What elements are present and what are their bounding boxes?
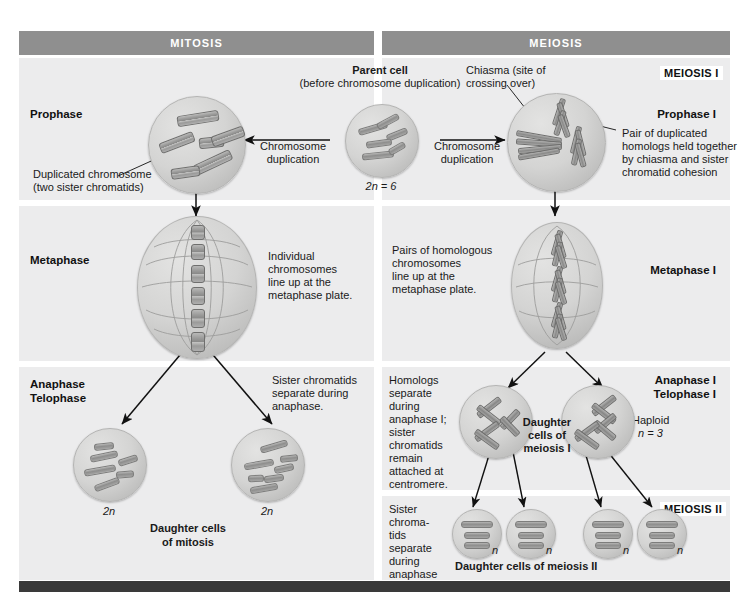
- parent-cell-ploidy: 2n = 6: [341, 180, 421, 193]
- label-telophase: Telophase: [30, 392, 86, 405]
- meiosis-ii-cell-1-ploidy: n: [492, 544, 498, 557]
- annotation-chromosome-duplication-right: Chromosome duplication: [424, 140, 510, 166]
- meiosis-header-label: MEIOSIS: [529, 37, 583, 49]
- label-metaphase-i: Metaphase I: [612, 264, 716, 277]
- caption-daughter-cells-of-mitosis: Daughter cells of mitosis: [126, 521, 250, 549]
- label-anaphase-i: Anaphase I: [618, 374, 716, 387]
- annotation-pairs-of-homologous: Pairs of homologous chromosomes line up …: [392, 244, 512, 296]
- annotation-haploid: Haploid: [632, 414, 712, 427]
- mitosis-header-bar: MITOSIS: [19, 31, 374, 55]
- label-prophase: Prophase: [30, 108, 82, 121]
- meiosis-ii-cell-3-ploidy: n: [623, 544, 629, 557]
- mitosis-daughter-right-ploidy: 2n: [227, 505, 307, 518]
- section-tag-meiosis-i: MEIOSIS I: [660, 66, 723, 80]
- label-anaphase: Anaphase: [30, 378, 85, 391]
- annotation-haploid-n: n = 3: [638, 427, 718, 440]
- label-metaphase: Metaphase: [30, 254, 89, 267]
- mitosis-header-label: MITOSIS: [170, 37, 223, 49]
- caption-daughter-cells-of-meiosis-i: Daughter cells of meiosis I: [514, 416, 580, 455]
- meiosis-prophase-i-cell: [507, 93, 606, 192]
- parent-cell: [345, 104, 419, 178]
- parent-cell-title: Parent cell: [300, 64, 460, 77]
- mitosis-daughter-cell-left: [73, 428, 147, 502]
- meiosis-ii-cell-2-ploidy: n: [546, 544, 552, 557]
- meiosis-metaphase-i-cell: [511, 222, 603, 349]
- mitosis-prophase-cell: [148, 96, 246, 194]
- mitosis-metaphase-cell: [137, 216, 257, 359]
- label-prophase-i: Prophase I: [604, 108, 716, 121]
- annotation-pair-of-homologs: Pair of duplicated homologs held togethe…: [622, 127, 738, 179]
- mitosis-meiosis-comparison-figure: MITOSIS MEIOSIS: [0, 0, 747, 600]
- meiosis-ii-cell-4-ploidy: n: [677, 544, 683, 557]
- annotation-chiasma: Chiasma (site of crossing over): [466, 64, 586, 90]
- annotation-homologs-separate: Homologs separate during anaphase I; sis…: [389, 374, 455, 491]
- meiosis-header-bar: MEIOSIS: [382, 31, 730, 55]
- mitosis-daughter-cell-right: [231, 428, 305, 502]
- caption-daughter-cells-of-meiosis-ii: Daughter cells of meiosis II: [455, 560, 715, 573]
- annotation-chromosome-duplication-left: Chromosome duplication: [250, 140, 336, 166]
- label-telophase-i: Telophase I: [618, 388, 716, 401]
- parent-cell-subtitle: (before chromosome duplication): [282, 77, 478, 90]
- bottom-bar: [19, 581, 730, 592]
- annotation-individual-chromosomes: Individual chromosomes line up at the me…: [268, 250, 368, 302]
- annotation-sister-chromatids-separate: Sister chromatids separate during anapha…: [272, 374, 378, 413]
- mitosis-daughter-left-ploidy: 2n: [69, 505, 149, 518]
